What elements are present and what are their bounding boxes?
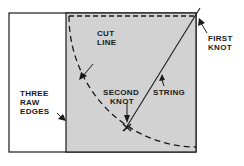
cut-line-label-2: LINE — [97, 38, 117, 47]
second-knot-label-1: SECOND — [103, 88, 139, 97]
cut-line-label-1: CUT — [97, 29, 114, 38]
first-knot-label-2: KNOT — [208, 43, 232, 52]
three-raw-edges-label-3: EDGES — [20, 107, 50, 116]
three-raw-edges-label-2: RAW — [20, 98, 40, 107]
first-knot-arrow — [198, 18, 207, 33]
fabric-folding-diagram: CUT LINE FIRST KNOT SECOND KNOT STRING T… — [0, 0, 244, 166]
string-label: STRING — [153, 88, 185, 97]
three-raw-edges-label-1: THREE — [20, 89, 49, 98]
second-knot-label-2: KNOT — [110, 97, 134, 106]
folded-fabric-square — [66, 13, 196, 152]
first-knot-label-1: FIRST — [208, 34, 233, 43]
